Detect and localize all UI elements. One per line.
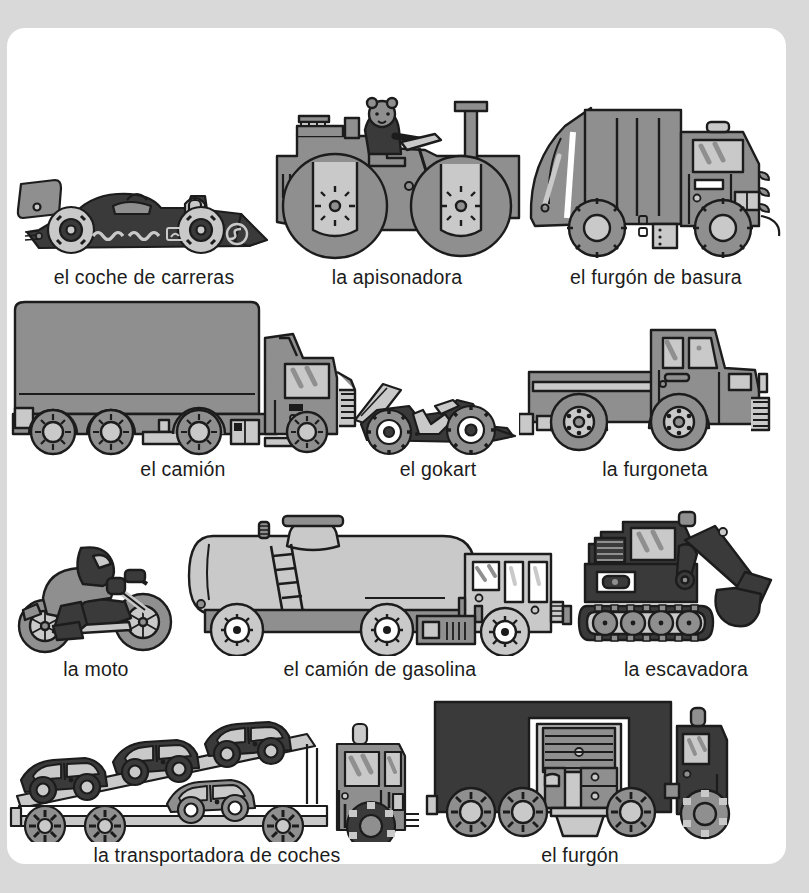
picture-dictionary-page: el coche de carreras [7, 28, 786, 864]
vehicle-label-van: el furgón [425, 844, 735, 867]
car-transporter-illustration [7, 704, 427, 842]
vehicle-label-lorry: el camión [7, 458, 359, 481]
vehicle-label-car-transporter: la transportadora de coches [7, 844, 427, 867]
vehicle-card-gokart[interactable]: el gokart [347, 370, 529, 456]
steamroller-illustration [269, 90, 525, 264]
vehicle-label-motorbike: la moto [7, 658, 185, 681]
vehicle-label-excavator: la escavadora [575, 658, 797, 681]
gokart-illustration [347, 370, 529, 456]
vehicle-label-gokart: el gokart [347, 458, 529, 481]
excavator-illustration [575, 510, 797, 656]
vehicle-card-race-car[interactable]: el coche de carreras [9, 166, 279, 264]
van-illustration [425, 690, 735, 842]
lorry-illustration [7, 294, 359, 456]
race-car-illustration [9, 166, 279, 264]
garbage-truck-illustration [525, 100, 787, 264]
motorbike-illustration [7, 540, 185, 656]
vehicle-card-lorry[interactable]: el camión [7, 294, 359, 456]
vehicle-label-pickup: la furgoneta [519, 458, 791, 481]
vehicle-card-van[interactable]: el furgón [425, 690, 735, 842]
vehicle-card-tanker[interactable]: el camión de gasolina [179, 514, 581, 656]
tanker-illustration [179, 514, 581, 656]
vehicle-card-pickup[interactable]: la furgoneta [519, 312, 791, 456]
vehicle-card-steamroller[interactable]: la apisonadora [269, 90, 525, 264]
vehicle-label-tanker: el camión de gasolina [179, 658, 581, 681]
vehicle-card-garbage-truck[interactable]: el furgón de basura [525, 100, 787, 264]
vehicle-card-excavator[interactable]: la escavadora [575, 510, 797, 656]
vehicle-label-race-car: el coche de carreras [9, 266, 279, 289]
vehicle-label-steamroller: la apisonadora [269, 266, 525, 289]
vehicle-card-motorbike[interactable]: la moto [7, 540, 185, 656]
vehicle-card-car-transporter[interactable]: la transportadora de coches [7, 704, 427, 842]
pickup-illustration [519, 312, 791, 456]
vehicle-label-garbage-truck: el furgón de basura [525, 266, 787, 289]
